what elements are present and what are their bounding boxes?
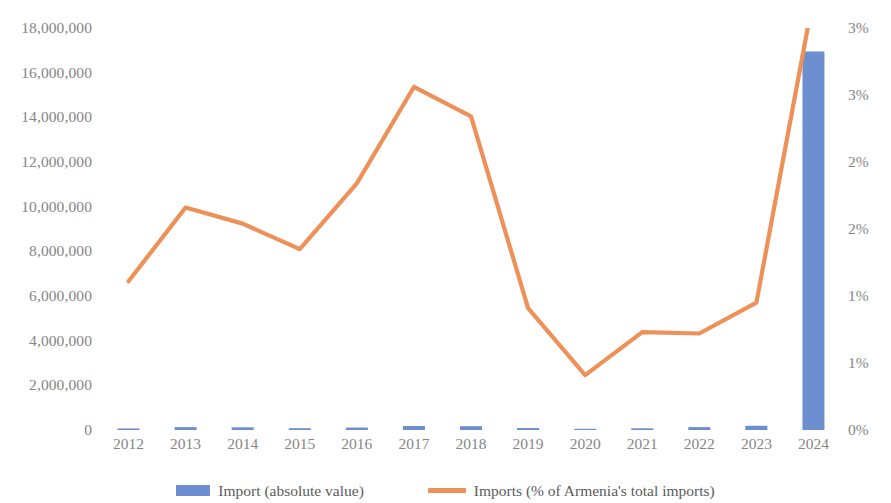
x-axis-tick-label: 2014 [213,436,273,452]
left-axis-tick-label: 4,000,000 [29,333,92,349]
bar [517,428,539,430]
bar [232,427,254,430]
left-axis-tick-label: 6,000,000 [29,288,92,304]
x-axis-tick-label: 2019 [498,436,558,452]
left-value-axis: 02,000,0004,000,0006,000,0008,000,00010,… [0,0,96,440]
bar [745,426,767,430]
chart-plot-svg [100,28,842,430]
bar [175,427,197,430]
bar [574,429,596,430]
bar [346,428,368,430]
bar [802,51,824,430]
chart-legend: Import (absolute value) Imports (% of Ar… [0,478,891,503]
legend-label-import-absolute-value: Import (absolute value) [218,483,363,499]
right-axis-tick-label: 3% [848,87,869,103]
right-axis-tick-label: 2% [848,221,869,237]
left-axis-tick-label: 16,000,000 [21,65,92,81]
right-axis-tick-label: 1% [848,355,869,371]
legend-bar-swatch-icon [176,485,210,496]
chart-container: 02,000,0004,000,0006,000,0008,000,00010,… [0,0,891,503]
right-percent-axis: 0%1%1%2%2%3%3% [846,0,891,440]
bar [118,428,140,430]
bar [289,428,311,430]
x-axis-tick-label: 2012 [99,436,159,452]
x-axis-tick-label: 2024 [783,436,843,452]
x-axis-tick-label: 2023 [726,436,786,452]
legend-line-swatch-icon [428,488,466,493]
plot-area [100,28,842,430]
bar-series-import-absolute-value [118,51,825,430]
legend-item-import-absolute-value: Import (absolute value) [176,483,363,499]
bar [631,428,653,430]
x-axis-tick-label: 2020 [555,436,615,452]
left-axis-tick-label: 0 [84,422,92,438]
legend-label-imports-percent: Imports (% of Armenia's total imports) [474,483,715,499]
x-axis-tick-label: 2021 [612,436,672,452]
left-axis-tick-label: 12,000,000 [21,154,92,170]
left-axis-tick-label: 18,000,000 [21,20,92,36]
left-axis-tick-label: 2,000,000 [29,377,92,393]
bar [460,426,482,430]
bar [688,427,710,430]
x-axis-tick-label: 2016 [327,436,387,452]
left-axis-tick-label: 14,000,000 [21,109,92,125]
legend-item-imports-percent: Imports (% of Armenia's total imports) [428,483,715,499]
right-axis-tick-label: 1% [848,288,869,304]
category-axis: 2012201320142015201620172018201920202021… [100,434,842,464]
x-axis-tick-label: 2017 [384,436,444,452]
right-axis-tick-label: 0% [848,422,869,438]
x-axis-tick-label: 2013 [156,436,216,452]
right-axis-tick-label: 2% [848,154,869,170]
bar [403,426,425,430]
x-axis-tick-label: 2022 [669,436,729,452]
x-axis-tick-label: 2018 [441,436,501,452]
left-axis-tick-label: 10,000,000 [21,199,92,215]
line-series-imports-percent-of-total [129,28,814,375]
x-axis-tick-label: 2015 [270,436,330,452]
left-axis-tick-label: 8,000,000 [29,243,92,259]
right-axis-tick-label: 3% [848,20,869,36]
